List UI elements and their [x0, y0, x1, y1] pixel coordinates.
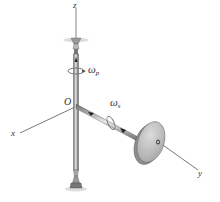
- omega-symbol: ω: [110, 96, 118, 108]
- x-axis: [20, 107, 75, 133]
- spin-shaft: [76, 104, 142, 144]
- omega-subscript: p: [96, 69, 100, 77]
- vertical-shaft: [74, 54, 79, 170]
- x-axis-label: x: [11, 129, 15, 138]
- z-axis-label: z: [73, 1, 77, 10]
- origin-label: O: [64, 97, 71, 107]
- omega-symbol: ω: [88, 63, 96, 75]
- y-axis-label: y: [198, 169, 202, 178]
- omega-p-label: ωp: [88, 64, 99, 77]
- top-bearing: [63, 38, 89, 54]
- bottom-pivot: [65, 170, 87, 192]
- y-axis: [160, 143, 198, 170]
- omega-s-label: ωs: [110, 97, 121, 110]
- omega-subscript: s: [118, 102, 121, 110]
- disk: [129, 118, 170, 168]
